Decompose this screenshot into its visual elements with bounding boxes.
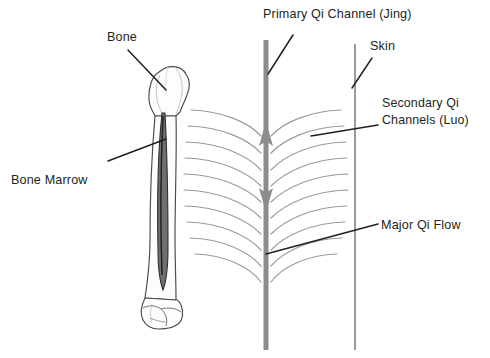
label-bone-marrow: Bone Marrow [11, 173, 88, 187]
bone-condyles [141, 298, 182, 329]
label-skin: Skin [370, 39, 395, 53]
label-secondary-qi-channels-line2: Channels (Luo) [382, 113, 469, 127]
label-bone: Bone [107, 30, 137, 44]
label-primary-qi-channel: Primary Qi Channel (Jing) [263, 7, 412, 21]
label-secondary-qi-channels-line1: Secondary Qi [382, 96, 459, 110]
diagram-canvas: Bone Bone Marrow Primary Qi Channel (Jin… [0, 0, 490, 358]
label-major-qi-flow: Major Qi Flow [381, 218, 461, 232]
qi-channel-diagram: Bone Bone Marrow Primary Qi Channel (Jin… [0, 0, 490, 358]
